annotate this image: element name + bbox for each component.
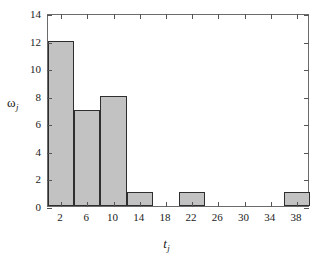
y-axis-tick	[47, 98, 52, 99]
histogram-figure: ωj 26101418222630343802468101214 tj	[0, 0, 333, 265]
y-axis-tick	[304, 125, 309, 126]
y-axis-tick-label: 12	[15, 36, 41, 47]
y-axis-tick-label: 14	[15, 9, 41, 20]
plot-area	[47, 14, 309, 207]
x-axis-tick-label: 38	[290, 212, 301, 223]
y-axis-tick-label: 8	[15, 91, 41, 102]
x-axis-tick	[297, 202, 298, 207]
x-axis-tick	[166, 14, 167, 19]
x-axis-tick-label: 30	[238, 212, 249, 223]
x-axis-tick	[140, 14, 141, 19]
x-axis-tick	[218, 14, 219, 19]
y-axis-tick-label: 0	[15, 202, 41, 213]
x-axis-tick-label: 22	[186, 212, 197, 223]
y-axis-tick	[304, 43, 309, 44]
y-axis-tick	[47, 15, 52, 16]
x-axis-tick	[61, 14, 62, 19]
x-axis-tick	[87, 14, 88, 19]
y-axis-tick-label: 6	[15, 119, 41, 130]
x-axis-title-subscript: j	[167, 243, 170, 253]
x-axis-tick	[297, 14, 298, 19]
x-axis-tick	[192, 14, 193, 19]
y-axis-tick	[304, 153, 309, 154]
x-axis-tick-label: 18	[159, 212, 170, 223]
x-axis-tick	[140, 202, 141, 207]
x-axis-tick-label: 6	[84, 212, 90, 223]
x-axis-tick	[271, 202, 272, 207]
x-axis-tick-label: 2	[57, 212, 63, 223]
y-axis-tick	[47, 208, 52, 209]
x-axis-tick-label: 14	[133, 212, 144, 223]
y-axis-tick	[47, 43, 52, 44]
x-axis-tick	[271, 14, 272, 19]
bars-layer	[48, 15, 308, 206]
x-axis-tick	[61, 202, 62, 207]
x-axis-tick-label: 10	[107, 212, 118, 223]
y-axis-tick	[304, 15, 309, 16]
x-axis-tick	[166, 202, 167, 207]
x-axis-title: tj	[0, 236, 333, 253]
x-axis-tick	[245, 14, 246, 19]
x-axis-tick-label: 26	[212, 212, 223, 223]
y-axis-tick	[47, 180, 52, 181]
x-axis-tick	[114, 14, 115, 19]
y-axis-tick-label: 4	[15, 146, 41, 157]
y-axis-tick	[304, 70, 309, 71]
y-axis-tick	[47, 125, 52, 126]
x-axis-tick	[245, 202, 246, 207]
y-axis-tick-label: 2	[15, 174, 41, 185]
x-axis-tick	[87, 202, 88, 207]
y-axis-tick	[304, 180, 309, 181]
x-axis-tick-label: 34	[264, 212, 275, 223]
y-axis-tick	[47, 70, 52, 71]
x-axis-tick	[114, 202, 115, 207]
x-axis-tick	[192, 202, 193, 207]
histogram-bar	[74, 110, 100, 207]
histogram-bar	[100, 96, 126, 206]
y-axis-title-subscript: j	[16, 102, 19, 112]
y-axis-tick	[304, 208, 309, 209]
y-axis-tick	[304, 98, 309, 99]
y-axis-tick	[47, 153, 52, 154]
x-axis-tick	[218, 202, 219, 207]
y-axis-tick-label: 10	[15, 64, 41, 75]
